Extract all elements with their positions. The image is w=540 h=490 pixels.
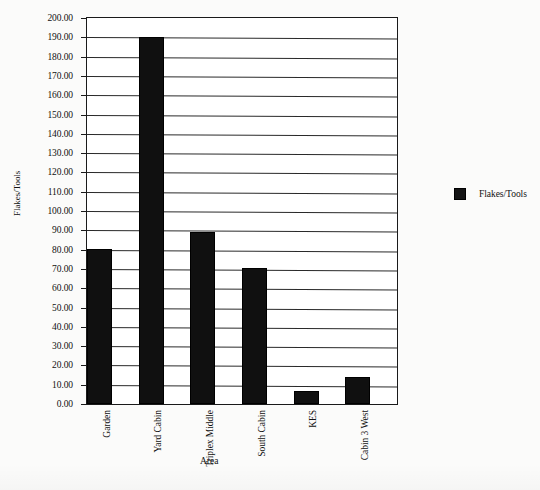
gridline <box>87 37 397 40</box>
gridline <box>87 250 397 253</box>
y-axis-tick-label: 90.00 <box>52 224 73 236</box>
y-axis-tick-label: 110.00 <box>48 186 73 198</box>
y-axis-tick-label: 10.00 <box>52 379 73 391</box>
y-axis-tick: 110.00 <box>81 192 87 193</box>
y-axis-tick-label: 130.00 <box>47 147 73 159</box>
y-axis-tick-label: 0.00 <box>57 398 73 410</box>
y-axis-tick: 170.00 <box>81 76 87 77</box>
y-axis-tick-label: 150.00 <box>47 109 73 121</box>
gridline <box>87 95 397 98</box>
y-axis-tick: 200.00 <box>81 18 87 19</box>
gridline <box>87 230 397 233</box>
y-axis-tick: 100.00 <box>81 211 87 212</box>
y-axis-tick-label: 80.00 <box>52 244 73 256</box>
y-axis-tick-label: 70.00 <box>52 263 73 275</box>
y-axis-tick: 120.00 <box>81 172 87 173</box>
y-axis-title: Flakes/Tools <box>12 171 22 216</box>
gridline <box>87 115 397 118</box>
bar <box>139 37 164 404</box>
x-axis-tick-label: Yard Cabin <box>153 410 163 453</box>
y-axis-tick-label: 30.00 <box>52 340 73 352</box>
y-axis-tick-label: 50.00 <box>52 302 73 314</box>
y-axis-tick: 190.00 <box>81 37 87 38</box>
bar <box>294 391 319 405</box>
y-axis-tick: 180.00 <box>81 57 87 58</box>
plot-area: 200.00190.00180.00170.00160.00150.00140.… <box>86 17 398 405</box>
x-axis-tick-label: Garden <box>102 410 112 438</box>
y-axis-tick-label: 120.00 <box>47 166 73 178</box>
y-axis-tick: 130.00 <box>81 153 87 154</box>
y-axis-tick: 140.00 <box>81 134 87 135</box>
y-axis-tick-label: 20.00 <box>52 359 73 371</box>
y-axis-tick-label: 140.00 <box>47 128 73 140</box>
y-axis-tick: 150.00 <box>81 115 87 116</box>
bar-chart-figure: Flakes/Tools 200.00190.00180.00170.00160… <box>0 0 540 490</box>
y-axis-tick: 160.00 <box>81 95 87 96</box>
chart-page: Flakes/Tools 200.00190.00180.00170.00160… <box>0 0 540 490</box>
gridline <box>87 134 397 137</box>
x-axis-tick-label: Triplex Middle <box>205 410 215 467</box>
y-axis-tick-label: 100.00 <box>47 205 73 217</box>
x-axis-tick-label: KES <box>308 410 318 428</box>
y-axis-tick-label: 180.00 <box>47 51 73 63</box>
chart-legend: Flakes/Tools <box>454 188 527 200</box>
gridline <box>87 76 397 79</box>
y-axis-tick-label: 60.00 <box>52 282 73 294</box>
gridline <box>87 192 397 195</box>
y-axis-tick-label: 190.00 <box>47 31 73 43</box>
legend-swatch-filled-square-icon <box>454 188 466 200</box>
bar <box>87 249 112 404</box>
y-axis-tick-label: 160.00 <box>47 89 73 101</box>
gridline <box>87 153 397 156</box>
gridline <box>87 172 397 175</box>
y-axis-tick-label: 40.00 <box>52 321 73 333</box>
y-axis-tick-label: 170.00 <box>47 70 73 82</box>
bar <box>345 377 370 404</box>
bar <box>190 232 215 404</box>
y-axis-tick: 90.00 <box>81 230 87 231</box>
legend-label: Flakes/Tools <box>479 189 527 199</box>
x-axis-tick-label: Cabin 3 West <box>360 410 370 460</box>
y-axis-tick-label: 200.00 <box>47 12 73 24</box>
y-axis-tick: 0.00 <box>81 404 87 405</box>
bar <box>242 268 267 404</box>
gridline <box>87 211 397 214</box>
x-axis-tick-label: South Cabin <box>257 410 267 457</box>
gridline <box>87 57 397 60</box>
